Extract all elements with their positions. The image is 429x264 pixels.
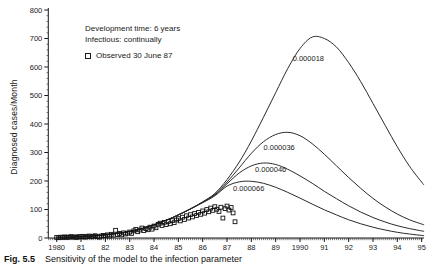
y-tick-label: 800 <box>30 6 43 15</box>
y-tick-label: 400 <box>30 120 43 129</box>
y-tick-label: 100 <box>30 205 43 214</box>
figure-caption: Fig. 5.5Sensitivity of the model to the … <box>4 254 242 264</box>
x-tick-label: 87 <box>223 243 231 252</box>
legend-development-time: Development time: 6 years <box>85 23 180 34</box>
figure-caption-text: Sensitivity of the model to the infectio… <box>45 254 242 264</box>
x-tick-label: 92 <box>344 243 352 252</box>
x-tick-label: 93 <box>369 243 377 252</box>
observed-point <box>233 220 237 224</box>
observed-point <box>221 216 225 220</box>
x-tick-label: 84 <box>150 243 158 252</box>
chart-legend: Development time: 6 years Infectious: co… <box>85 23 180 61</box>
x-tick-label: 86 <box>199 243 207 252</box>
y-tick-label: 600 <box>30 63 43 72</box>
figure-5-5: 0100200300400500600700800198081828384858… <box>0 0 429 264</box>
curve-label-0-000036: 0.000036 <box>264 143 295 152</box>
x-tick-label: 94 <box>393 243 401 252</box>
curve-0-000018 <box>57 36 424 237</box>
open-square-marker-icon <box>85 53 91 59</box>
observed-point <box>219 205 223 209</box>
y-tick-label: 500 <box>30 91 43 100</box>
observed-point <box>231 211 235 215</box>
x-tick-label: 83 <box>126 243 134 252</box>
x-tick-label: 81 <box>77 243 85 252</box>
y-tick-label: 0 <box>38 234 42 243</box>
x-tick-label: 1990 <box>292 243 309 252</box>
y-axis-title: Diagnosed cases/Month <box>9 79 19 174</box>
x-tick-label: 89 <box>271 243 279 252</box>
legend-infectious: Infectious: continually <box>85 34 180 45</box>
chart-plot-area: 0100200300400500600700800198081828384858… <box>0 0 429 264</box>
curve-label-0-000066: 0.000066 <box>233 184 264 193</box>
x-tick-label: 95 <box>417 243 425 252</box>
y-tick-label: 300 <box>30 148 43 157</box>
x-tick-label: 82 <box>101 243 109 252</box>
x-tick-label: 1980 <box>48 243 65 252</box>
figure-number: Fig. 5.5 <box>4 254 35 264</box>
y-tick-label: 200 <box>30 177 43 186</box>
legend-observed-label: Observed 30 June 87 <box>96 50 173 61</box>
curve-label-0-000018: 0.000018 <box>293 54 324 63</box>
x-tick-label: 88 <box>247 243 255 252</box>
legend-observed-item: Observed 30 June 87 <box>85 50 180 61</box>
x-tick-label: 85 <box>174 243 182 252</box>
observed-point <box>114 228 118 232</box>
x-tick-label: 91 <box>320 243 328 252</box>
curve-label-0-000046: 0.000046 <box>255 165 286 174</box>
y-tick-label: 700 <box>30 34 43 43</box>
